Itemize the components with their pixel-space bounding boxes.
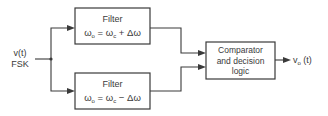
input-modulation-label: FSK: [11, 59, 29, 69]
arrow-to-upper-filter: [67, 25, 75, 31]
output-signal-label: vo (t): [293, 55, 312, 66]
comparator-line1: Comparator: [218, 45, 263, 55]
upper-filter-title: Filter: [103, 14, 123, 24]
input-signal-label: v(t): [14, 48, 27, 58]
arrow-to-lower-filter: [67, 88, 75, 94]
lower-filter-title: Filter: [103, 79, 123, 89]
arrow-upper-to-comparator: [198, 50, 206, 56]
arrow-lower-to-comparator: [198, 64, 206, 70]
comparator-line2: and decision: [217, 56, 265, 66]
lower-filter-block: Filter ωo = ωc − Δω: [75, 73, 150, 109]
input-wires: [35, 25, 75, 94]
filter-output-wires: [150, 28, 206, 91]
upper-filter-block: Filter ωo = ωc + Δω: [75, 8, 150, 44]
output: vo (t): [275, 55, 312, 66]
output-arrow: [283, 57, 291, 63]
fsk-detector-diagram: v(t) FSK Filter ωo = ωc + Δω Filter ωo =…: [0, 0, 328, 116]
comparator-line3: logic: [232, 66, 250, 76]
comparator-block: Comparator and decision logic: [206, 42, 275, 79]
